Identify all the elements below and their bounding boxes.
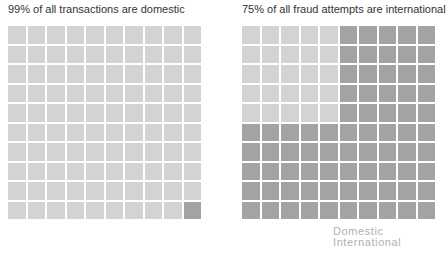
waffle-cell-domestic xyxy=(47,182,65,200)
waffle-cell-domestic xyxy=(281,26,299,44)
waffle-cell-domestic xyxy=(184,163,202,181)
waffle-cell-domestic xyxy=(242,46,260,64)
waffle-cell-international xyxy=(398,182,416,200)
waffle-cell-domestic xyxy=(106,46,124,64)
waffle-cell-domestic xyxy=(164,202,182,220)
waffle-cell-domestic xyxy=(145,85,163,103)
waffle-cell-domestic xyxy=(281,85,299,103)
waffle-cell-domestic xyxy=(145,182,163,200)
waffle-cell-international xyxy=(418,65,436,83)
waffle-cell-domestic xyxy=(145,163,163,181)
waffle-cell-domestic xyxy=(86,46,104,64)
waffle-cell-domestic xyxy=(301,85,319,103)
waffle-cell-domestic xyxy=(164,143,182,161)
waffle-cell-international xyxy=(242,163,260,181)
waffle-cell-international xyxy=(398,202,416,220)
waffle-cell-domestic xyxy=(262,26,280,44)
waffle-cell-domestic xyxy=(125,163,143,181)
waffle-cell-international xyxy=(281,182,299,200)
waffle-cell-international xyxy=(262,182,280,200)
waffle-cell-domestic xyxy=(67,65,85,83)
waffle-cell-international xyxy=(379,124,397,142)
waffle-cell-domestic xyxy=(164,104,182,122)
waffle-cell-international xyxy=(398,163,416,181)
waffle-cell-international xyxy=(340,104,358,122)
waffle-cell-domestic xyxy=(8,65,26,83)
waffle-cell-domestic xyxy=(28,124,46,142)
waffle-cell-international xyxy=(359,26,377,44)
waffle-cell-domestic xyxy=(184,46,202,64)
legend: Domestic International xyxy=(333,226,401,248)
waffle-cell-domestic xyxy=(320,26,338,44)
waffle-cell-international xyxy=(301,124,319,142)
waffle-cell-domestic xyxy=(320,85,338,103)
waffle-cell-domestic xyxy=(262,46,280,64)
waffle-cell-international xyxy=(301,182,319,200)
waffle-cell-international xyxy=(340,26,358,44)
waffle-cell-international xyxy=(340,46,358,64)
waffle-cell-domestic xyxy=(242,85,260,103)
waffle-cell-domestic xyxy=(184,104,202,122)
waffle-cell-domestic xyxy=(125,143,143,161)
waffle-cell-international xyxy=(359,124,377,142)
waffle-cell-domestic xyxy=(184,143,202,161)
waffle-cell-domestic xyxy=(28,46,46,64)
waffle-cell-domestic xyxy=(242,104,260,122)
waffle-cell-international xyxy=(301,202,319,220)
waffle-cell-domestic xyxy=(125,26,143,44)
waffle-cell-international xyxy=(184,202,202,220)
waffle-cell-domestic xyxy=(145,124,163,142)
waffle-cell-domestic xyxy=(184,65,202,83)
waffle-cell-domestic xyxy=(125,124,143,142)
waffle-cell-domestic xyxy=(28,26,46,44)
waffle-cell-domestic xyxy=(67,26,85,44)
waffle-cell-domestic xyxy=(145,65,163,83)
waffle-cell-domestic xyxy=(67,46,85,64)
waffle-cell-international xyxy=(359,202,377,220)
waffle-cell-international xyxy=(262,202,280,220)
waffle-cell-international xyxy=(379,202,397,220)
waffle-cell-international xyxy=(340,143,358,161)
waffle-cell-international xyxy=(379,182,397,200)
waffle-cell-international xyxy=(281,163,299,181)
waffle-cell-domestic xyxy=(106,65,124,83)
waffle-cell-domestic xyxy=(145,46,163,64)
waffle-cell-domestic xyxy=(28,202,46,220)
waffle-cell-domestic xyxy=(86,104,104,122)
waffle-cell-international xyxy=(359,104,377,122)
waffle-cell-international xyxy=(340,163,358,181)
waffle-cell-domestic xyxy=(125,182,143,200)
waffle-cell-international xyxy=(281,124,299,142)
waffle-cell-international xyxy=(320,163,338,181)
waffle-cell-domestic xyxy=(164,85,182,103)
waffle-cell-international xyxy=(242,202,260,220)
waffle-cell-domestic xyxy=(106,124,124,142)
waffle-cell-domestic xyxy=(47,202,65,220)
waffle-cell-domestic xyxy=(86,163,104,181)
waffle-cell-domestic xyxy=(8,124,26,142)
waffle-cell-international xyxy=(379,46,397,64)
waffle-cell-domestic xyxy=(28,104,46,122)
waffle-cell-international xyxy=(379,65,397,83)
waffle-cell-domestic xyxy=(125,104,143,122)
waffle-cell-international xyxy=(398,124,416,142)
waffle-cell-domestic xyxy=(301,26,319,44)
waffle-cell-international xyxy=(301,143,319,161)
waffle-cell-international xyxy=(242,182,260,200)
waffle-cell-domestic xyxy=(301,46,319,64)
waffle-cell-international xyxy=(418,85,436,103)
waffle-cell-domestic xyxy=(242,65,260,83)
waffle-cell-domestic xyxy=(67,104,85,122)
waffle-chart-fraud-attempts xyxy=(242,26,435,219)
waffle-cell-international xyxy=(418,124,436,142)
waffle-cell-international xyxy=(359,65,377,83)
waffle-cell-domestic xyxy=(184,26,202,44)
waffle-cell-international xyxy=(359,46,377,64)
waffle-cell-international xyxy=(262,163,280,181)
waffle-cell-domestic xyxy=(106,26,124,44)
waffle-cell-domestic xyxy=(301,104,319,122)
waffle-cell-domestic xyxy=(145,26,163,44)
waffle-cell-domestic xyxy=(8,85,26,103)
waffle-cell-domestic xyxy=(125,46,143,64)
waffle-cell-domestic xyxy=(164,46,182,64)
